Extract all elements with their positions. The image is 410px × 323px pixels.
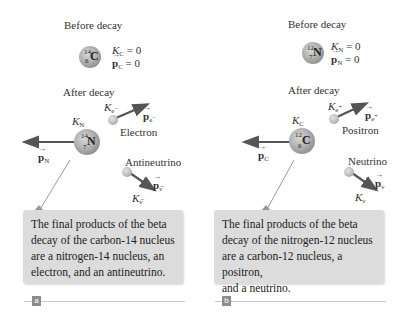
panel-divider [215,301,386,302]
antineutrino-label: Antineutrino [125,156,181,168]
antineutrino-kinetic-label: Kν̅ [132,193,143,208]
positron-momentum-label: pe+ [365,110,378,125]
after-decay-heading: After decay [63,86,115,98]
before-decay-heading: Before decay [64,19,122,31]
panel-divider [24,301,185,302]
callout-pointer [39,160,70,211]
initial-momentum: pC = 0 [112,57,140,73]
neutrino-momentum-arrow [352,173,375,189]
caption-line: electron, and an antineutrino. [31,264,175,280]
electron-momentum-arrow [116,105,146,118]
panel-a: Before decay 14 C 6 KC = 0 pC = 0 After … [0,0,205,323]
nucleus-momentum-label: pN [38,152,49,167]
panel-label-a: a [32,296,41,306]
nitrogen-12-label: 12 N 7 [302,42,324,64]
caption-callout: The final products of the beta decay of … [23,210,183,284]
caption-line: decay of the carbon-14 nucleus [31,232,175,248]
caption-line: and a neutrino. [222,280,376,296]
nucleus-kinetic-label: KN [72,116,84,131]
neutrino-momentum-label: pν [375,178,384,193]
initial-momentum: pN = 0 [331,53,359,69]
caption-line: The final products of the beta [31,216,175,232]
callout-pointer [266,160,294,211]
caption-line: are a nitrogen-14 nucleus, an [31,248,175,264]
carbon-12-label: 12 C 6 [289,128,315,154]
neutrino-kinetic-label: Kν [355,192,366,207]
after-decay-heading: After decay [288,84,340,96]
electron-label: Electron [120,126,157,138]
neutrino-particle [344,167,354,177]
electron-kinetic-label: Ke− [104,102,118,117]
before-decay-heading: Before decay [288,18,346,30]
caption-callout: The final products of the beta decay of … [214,210,384,284]
carbon-14-label: 14 C 6 [79,46,101,68]
caption-line: are a carbon-12 nucleus, a positron, [222,248,376,280]
nucleus-kinetic-label: KC [292,115,304,130]
panel-label-b: b [222,296,231,306]
caption-line: The final products of the beta [222,216,376,232]
panel-b: Before decay 12 N 7 KN = 0 pN = 0 After … [200,0,405,323]
caption-line: decay of the nitrogen-12 nucleus [222,232,376,248]
positron-kinetic-label: Ke+ [328,101,342,116]
antineutrino-momentum-label: pν̅ [153,180,162,195]
electron-momentum-label: pe− [143,111,156,126]
nucleus-momentum-label: pC [258,150,269,165]
neutrino-label: Neutrino [348,155,387,167]
nitrogen-14-label: 14 N 7 [74,129,100,155]
antineutrino-momentum-arrow [130,173,153,189]
positron-label: Positron [342,124,379,136]
antineutrino-particle [122,167,132,177]
